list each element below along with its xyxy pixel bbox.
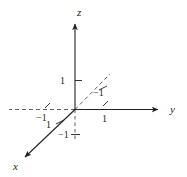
y-axis-label: y [170, 104, 175, 115]
tick-label-x-positive-one: 1 [46, 120, 51, 130]
x-axis-label: x [13, 161, 18, 172]
z-axis-label: z [77, 7, 81, 18]
tick-label-y-positive-one: 1 [102, 114, 107, 124]
tick-label-x-negative-one: −1 [93, 88, 104, 98]
coordinate-axes-figure: z y x 1 −1 −1 1 1 −1 [0, 0, 187, 177]
tick-label-z-positive-one: 1 [60, 76, 65, 86]
y-negative-one-tick [45, 103, 50, 108]
tick-label-z-negative-one: −1 [58, 130, 69, 140]
y-positive-one-tick [103, 101, 108, 106]
